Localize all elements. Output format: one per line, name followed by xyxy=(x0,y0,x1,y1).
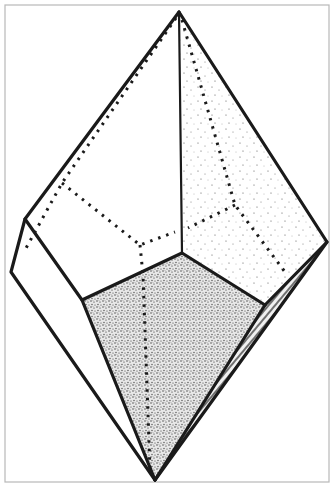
upper-right-face xyxy=(179,12,327,305)
crystal-diagram xyxy=(0,0,331,487)
